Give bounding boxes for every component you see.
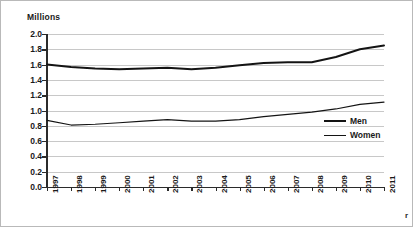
x-tick-label: 2011 xyxy=(388,176,397,193)
y-tick-mark xyxy=(42,141,46,142)
series-line-men xyxy=(47,45,384,69)
x-tick-mark xyxy=(264,187,265,191)
legend-swatch-women xyxy=(324,135,346,136)
x-tick-mark xyxy=(47,187,48,191)
y-tick-mark xyxy=(42,156,46,157)
y-tick-mark xyxy=(42,111,46,112)
y-tick-label: 0.6 xyxy=(30,136,42,146)
y-tick-mark xyxy=(42,187,46,188)
x-tick-mark xyxy=(95,187,96,191)
y-tick-label: 0.8 xyxy=(30,121,42,131)
y-tick-label: 1.2 xyxy=(30,90,42,100)
y-tick-label: 0.4 xyxy=(30,151,42,161)
x-tick-mark xyxy=(312,187,313,191)
y-tick-label: 1.4 xyxy=(30,75,42,85)
legend-label: Women xyxy=(350,130,381,140)
legend-label: Men xyxy=(350,116,367,126)
x-tick-mark xyxy=(360,187,361,191)
y-tick-label: 0.0 xyxy=(30,182,42,192)
chart-legend: MenWomen xyxy=(324,114,381,142)
y-tick-label: 2.0 xyxy=(30,29,42,39)
y-tick-mark xyxy=(42,172,46,173)
x-tick-mark xyxy=(288,187,289,191)
y-tick-mark xyxy=(42,126,46,127)
y-tick-mark xyxy=(42,80,46,81)
x-tick-mark xyxy=(384,187,385,191)
corner-marker-label: r xyxy=(405,211,408,220)
y-tick-mark xyxy=(42,49,46,50)
x-tick-mark xyxy=(71,187,72,191)
x-tick-mark xyxy=(119,187,120,191)
y-tick-label: 1.0 xyxy=(30,106,42,116)
plot-series-area xyxy=(47,34,384,187)
x-tick-mark xyxy=(336,187,337,191)
y-axis-ticks: 2.01.81.61.41.21.00.80.60.40.20.0 xyxy=(1,1,42,227)
y-tick-mark xyxy=(42,95,46,96)
x-tick-mark xyxy=(167,187,168,191)
legend-item-men[interactable]: Men xyxy=(324,114,381,128)
x-tick-mark xyxy=(191,187,192,191)
x-tick-mark xyxy=(143,187,144,191)
legend-item-women[interactable]: Women xyxy=(324,128,381,142)
chart-figure: Millions 2.01.81.61.41.21.00.80.60.40.20… xyxy=(0,0,413,227)
y-tick-label: 1.6 xyxy=(30,60,42,70)
y-tick-label: 1.8 xyxy=(30,44,42,54)
x-tick-mark xyxy=(216,187,217,191)
legend-swatch-men xyxy=(324,120,346,122)
x-tick-mark xyxy=(240,187,241,191)
y-tick-mark xyxy=(42,34,46,35)
y-tick-mark xyxy=(42,65,46,66)
y-tick-label: 0.2 xyxy=(30,167,42,177)
